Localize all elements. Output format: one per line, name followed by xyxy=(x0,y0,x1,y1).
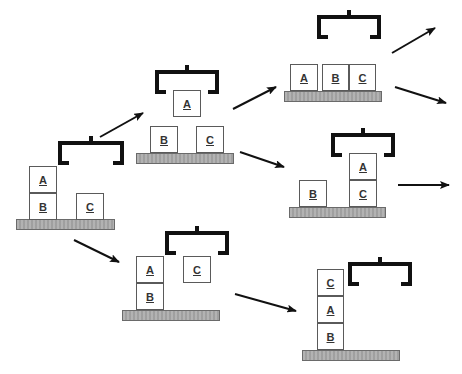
transition-arrow-icon xyxy=(240,152,284,167)
diagram-svg-layer xyxy=(0,0,462,374)
transition-arrow-icon xyxy=(74,240,119,262)
gripper-icon xyxy=(350,257,410,284)
gripper-icon xyxy=(157,65,217,92)
gripper-icon xyxy=(333,128,393,155)
transition-arrow-icon xyxy=(395,87,446,103)
gripper-icon xyxy=(319,10,379,37)
gripper-icon xyxy=(167,226,227,253)
transition-arrow-icon xyxy=(235,294,296,311)
transition-arrow-icon xyxy=(233,87,276,109)
gripper-icon xyxy=(60,136,122,163)
blocks-world-diagram: ABCABCABCACBABCCAB xyxy=(0,0,462,374)
transition-arrow-icon xyxy=(100,113,143,137)
transition-arrow-icon xyxy=(392,28,435,53)
